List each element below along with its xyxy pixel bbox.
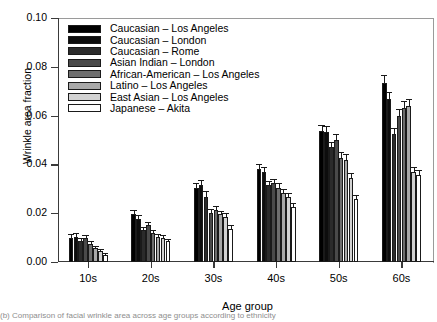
legend-item: Asian Indian – London bbox=[68, 57, 318, 68]
legend-swatch-icon bbox=[68, 47, 101, 55]
bar bbox=[387, 99, 392, 262]
error-bar-cap bbox=[415, 170, 421, 171]
bar bbox=[204, 197, 209, 262]
bar bbox=[156, 237, 161, 262]
error-bar-cap bbox=[82, 235, 88, 236]
bar bbox=[69, 238, 74, 262]
error-bar-cap bbox=[165, 239, 171, 240]
bar bbox=[74, 237, 79, 262]
bar bbox=[93, 248, 98, 262]
legend-swatch-icon bbox=[68, 25, 101, 33]
legend-swatch-icon bbox=[68, 82, 101, 90]
legend-swatch-icon bbox=[68, 93, 101, 101]
bar bbox=[199, 185, 204, 262]
bar bbox=[339, 158, 344, 262]
bar bbox=[131, 214, 136, 262]
bar bbox=[286, 197, 291, 262]
error-bar-cap bbox=[150, 230, 156, 231]
error-bar-cap bbox=[227, 225, 233, 226]
bar bbox=[266, 185, 271, 262]
error-bar-cap bbox=[333, 134, 339, 135]
bar bbox=[262, 172, 267, 262]
bar bbox=[392, 134, 397, 262]
bar bbox=[354, 199, 359, 262]
bar bbox=[194, 188, 199, 262]
y-axis-tick-label: 0.08 bbox=[0, 60, 47, 72]
error-bar-cap bbox=[97, 249, 103, 250]
error-bar-cap bbox=[102, 253, 108, 254]
error-bar-cap bbox=[275, 183, 281, 184]
bar bbox=[334, 140, 339, 262]
error-bar-cap bbox=[135, 215, 141, 216]
error-bar-cap bbox=[386, 92, 392, 93]
error-bar-cap bbox=[92, 246, 98, 247]
error-bar-cap bbox=[410, 167, 416, 168]
legend-item-label: Caucasian – Los Angeles bbox=[110, 23, 229, 34]
bar bbox=[319, 131, 324, 262]
y-axis-tick-label: 0.04 bbox=[0, 157, 47, 169]
error-bar-cap bbox=[381, 75, 387, 76]
error-bar-cap bbox=[353, 195, 359, 196]
bar bbox=[291, 207, 296, 262]
error-bar-cap bbox=[406, 99, 412, 100]
bar bbox=[276, 188, 281, 262]
error-bar bbox=[409, 99, 410, 106]
legend-item-label: African-American – Los Angeles bbox=[110, 69, 259, 80]
legend-swatch-icon bbox=[68, 36, 101, 44]
error-bar-cap bbox=[280, 189, 286, 190]
legend-swatch-icon bbox=[68, 70, 101, 78]
wrinkle-area-fraction-chart: Wrinkle area fraction Age group 0.000.02… bbox=[0, 0, 437, 322]
error-bar-cap bbox=[213, 206, 219, 207]
bar bbox=[397, 116, 402, 262]
y-axis-tick-label: 0.00 bbox=[0, 255, 47, 267]
error-bar-cap bbox=[145, 222, 151, 223]
error-bar bbox=[399, 109, 400, 116]
error-bar-cap bbox=[290, 203, 296, 204]
error-bar bbox=[389, 92, 390, 99]
legend-item: Caucasian – Los Angeles bbox=[68, 23, 318, 34]
x-axis-tick bbox=[276, 262, 277, 268]
legend-item: Japanese – Akita bbox=[68, 103, 318, 114]
legend-item: East Asian – Los Angeles bbox=[68, 91, 318, 102]
bar bbox=[209, 213, 214, 262]
error-bar-cap bbox=[198, 180, 204, 181]
error-bar-cap bbox=[160, 235, 166, 236]
bar bbox=[281, 193, 286, 262]
y-axis-tick bbox=[51, 262, 58, 263]
bar bbox=[402, 108, 407, 262]
bar bbox=[78, 241, 83, 262]
bar bbox=[411, 172, 416, 262]
legend-item-label: Caucasian – London bbox=[110, 35, 206, 46]
bar bbox=[329, 147, 334, 262]
y-axis-tick-label: 0.02 bbox=[0, 206, 47, 218]
x-axis-tick bbox=[339, 262, 340, 268]
y-axis-tick-label: 0.10 bbox=[0, 11, 47, 23]
bar bbox=[324, 132, 329, 262]
error-bar-cap bbox=[270, 179, 276, 180]
y-axis-tick bbox=[51, 18, 58, 19]
error-bar-cap bbox=[222, 213, 228, 214]
y-axis-tick bbox=[51, 164, 58, 165]
legend-item: Latino – Los Angeles bbox=[68, 80, 318, 91]
bar bbox=[257, 169, 262, 262]
legend-item-label: Japanese – Akita bbox=[110, 103, 190, 114]
bar bbox=[161, 238, 166, 262]
x-axis-tick-label: 50s bbox=[309, 272, 369, 284]
legend-swatch-icon bbox=[68, 104, 101, 112]
bar bbox=[223, 217, 228, 262]
error-bar-cap bbox=[256, 164, 262, 165]
error-bar-cap bbox=[401, 101, 407, 102]
bar bbox=[344, 160, 349, 262]
bar bbox=[218, 214, 223, 262]
x-axis-tick-label: 60s bbox=[371, 272, 431, 284]
y-axis-tick bbox=[51, 213, 58, 214]
legend: Caucasian – Los AngelesCaucasian – Londo… bbox=[68, 23, 318, 114]
error-bar-cap bbox=[323, 126, 329, 127]
bar bbox=[406, 106, 411, 262]
bar bbox=[166, 241, 171, 262]
bar bbox=[136, 219, 141, 262]
bar bbox=[271, 183, 276, 262]
legend-item-label: East Asian – Los Angeles bbox=[110, 92, 229, 103]
error-bar-cap bbox=[343, 154, 349, 155]
error-bar-cap bbox=[130, 210, 136, 211]
